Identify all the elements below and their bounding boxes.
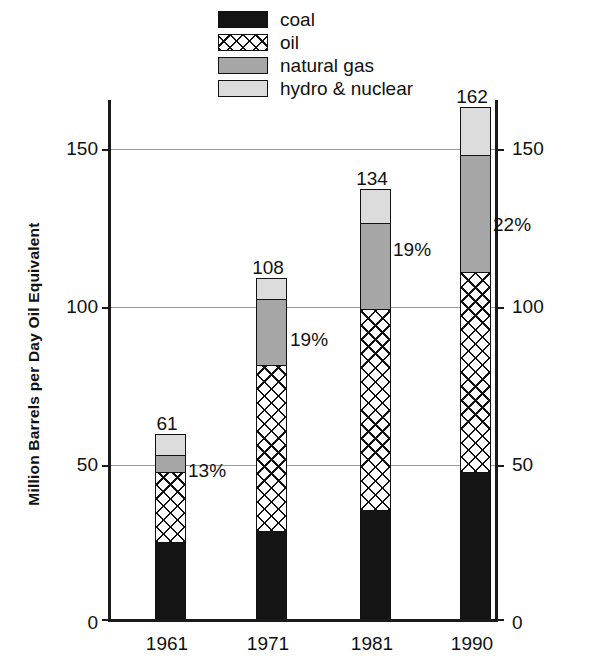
bar-segment-oil-1990 — [461, 273, 490, 473]
bar-total-label-1990: 162 — [442, 87, 502, 106]
bar-total-label-1961: 61 — [137, 414, 197, 433]
tick-left-50 — [102, 465, 111, 467]
x-axis-label-1971: 1971 — [233, 634, 303, 653]
legend-label-natural-gas: natural gas — [280, 56, 374, 75]
annotation-pct-1971: 19% — [290, 330, 328, 349]
y-axis-right-label-50: 50 — [512, 455, 582, 474]
bar-1981[interactable] — [360, 189, 391, 619]
y-axis-left-label-50: 50 — [28, 455, 98, 474]
legend-label-hydro-nuclear: hydro & nuclear — [280, 79, 413, 98]
annotation-pct-1981: 19% — [393, 240, 431, 259]
y-axis-right-label-100: 100 — [512, 297, 582, 316]
plot-area — [108, 100, 498, 622]
bar-total-label-1981: 134 — [342, 169, 402, 188]
natural-gas-swatch-icon — [218, 57, 268, 74]
bar-1961[interactable] — [155, 434, 186, 619]
y-axis-left-label-0: 0 — [28, 613, 98, 632]
x-axis-label-1961: 1961 — [132, 634, 202, 653]
tick-right-150 — [495, 149, 504, 151]
annotation-pct-1990: 22% — [493, 215, 531, 234]
bar-1971[interactable] — [256, 278, 287, 619]
y-axis-right-label-150: 150 — [512, 139, 582, 158]
tick-right-0 — [495, 619, 504, 621]
legend-label-coal: coal — [280, 10, 315, 29]
bar-segment-hydro-1981 — [361, 190, 390, 224]
legend-item-oil: oil — [218, 31, 518, 54]
legend-label-oil: oil — [280, 33, 299, 52]
tick-left-0 — [102, 619, 111, 621]
oil-swatch-icon — [218, 34, 268, 51]
bar-segment-gas-1971 — [257, 300, 286, 366]
tick-right-50 — [495, 465, 504, 467]
bar-total-label-1971: 108 — [238, 258, 298, 277]
bar-segment-coal-1981 — [361, 511, 390, 618]
gridline-150 — [111, 149, 495, 150]
gridline-100 — [111, 307, 495, 308]
bar-segment-oil-1961 — [156, 473, 185, 543]
tick-left-100 — [102, 307, 111, 309]
bar-segment-hydro-1961 — [156, 435, 185, 456]
legend-item-coal: coal — [218, 8, 518, 31]
bar-segment-oil-1981 — [361, 310, 390, 511]
x-axis-label-1990: 1990 — [437, 634, 507, 653]
bar-segment-gas-1981 — [361, 224, 390, 310]
hydro-nuclear-swatch-icon — [218, 80, 268, 97]
bar-segment-hydro-1990 — [461, 108, 490, 156]
annotation-pct-1961: 13% — [188, 461, 226, 480]
y-axis-left-label-100: 100 — [28, 297, 98, 316]
chart-canvas: coal oil natural gas hydro & nuclear Mil… — [0, 0, 603, 664]
legend-item-natural-gas: natural gas — [218, 54, 518, 77]
bar-segment-coal-1971 — [257, 532, 286, 618]
bar-segment-gas-1990 — [461, 156, 490, 273]
bar-segment-coal-1961 — [156, 543, 185, 618]
bar-segment-hydro-1971 — [257, 279, 286, 300]
bar-segment-gas-1961 — [156, 456, 185, 473]
x-axis-label-1981: 1981 — [337, 634, 407, 653]
bar-1990[interactable] — [460, 107, 491, 619]
bar-segment-oil-1971 — [257, 366, 286, 532]
y-axis-title: Million Barrels per Day Oil Equivalent — [25, 154, 43, 574]
y-axis-right-label-0: 0 — [512, 613, 582, 632]
bar-segment-coal-1990 — [461, 473, 490, 618]
tick-left-150 — [102, 149, 111, 151]
y-axis-left-label-150: 150 — [28, 139, 98, 158]
coal-swatch-icon — [218, 11, 268, 28]
tick-right-100 — [495, 307, 504, 309]
